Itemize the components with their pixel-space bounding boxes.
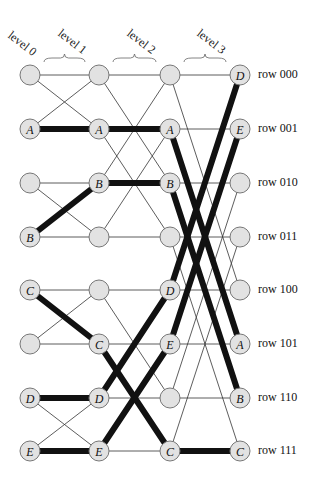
node-label: E xyxy=(25,445,34,459)
node-label: B xyxy=(95,177,103,191)
node-label: E xyxy=(94,445,103,459)
node-label: B xyxy=(236,392,244,406)
node-label: E xyxy=(235,123,244,137)
node xyxy=(20,173,40,193)
row-label: row 000 xyxy=(258,67,298,82)
node-label: A xyxy=(25,123,34,137)
node-label: D xyxy=(25,392,35,406)
path-D xyxy=(30,75,240,398)
node-label: D xyxy=(94,392,104,406)
node-label: D xyxy=(165,284,175,298)
node-label: A xyxy=(165,123,174,137)
node-label: C xyxy=(166,445,175,459)
node xyxy=(160,227,180,247)
highlighted-paths xyxy=(30,75,240,451)
node-label: D xyxy=(235,69,245,83)
node xyxy=(89,280,109,300)
node xyxy=(20,65,40,85)
node xyxy=(20,334,40,354)
node-label: B xyxy=(166,177,174,191)
path-B xyxy=(30,183,240,398)
row-label: row 011 xyxy=(258,229,297,244)
node-label: C xyxy=(236,445,245,459)
node-label: C xyxy=(95,338,104,352)
node xyxy=(89,227,109,247)
node xyxy=(230,280,250,300)
node-label: A xyxy=(94,123,103,137)
row-label: row 101 xyxy=(258,336,298,351)
node-label: B xyxy=(26,231,34,245)
node xyxy=(160,388,180,408)
row-label: row 010 xyxy=(258,175,298,190)
row-label: row 111 xyxy=(258,443,297,458)
row-label: row 100 xyxy=(258,282,298,297)
row-label: row 110 xyxy=(258,390,297,405)
node-label: E xyxy=(165,338,174,352)
node xyxy=(160,65,180,85)
node xyxy=(230,227,250,247)
row-label: row 001 xyxy=(258,121,298,136)
node-label: A xyxy=(235,338,244,352)
level-braces xyxy=(44,54,226,62)
node xyxy=(89,65,109,85)
node xyxy=(230,173,250,193)
node-label: C xyxy=(26,284,35,298)
